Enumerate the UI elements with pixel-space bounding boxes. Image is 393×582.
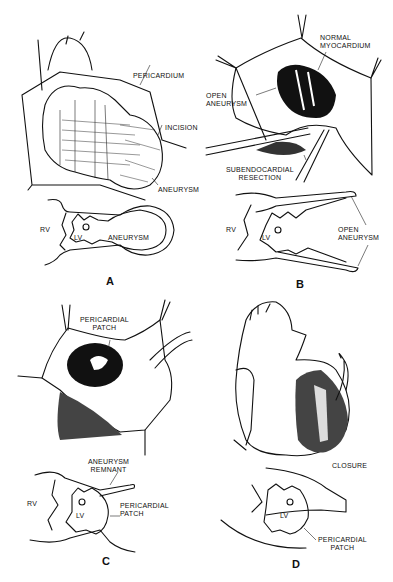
panel-letter-d: D	[292, 558, 300, 570]
label-section-pericardial-patch: PERICARDIAL PATCH	[318, 536, 367, 552]
label-closure: CLOSURE	[332, 462, 367, 470]
label-section-aneurysm: ANEURYSM	[108, 234, 149, 242]
label-subendocardial-resection: SUBENDOCARDIAL RESECTION	[226, 166, 294, 182]
label-rv: RV	[40, 226, 50, 234]
label-lv: LV	[280, 512, 288, 520]
panel-letter-b: B	[296, 278, 304, 290]
label-lv: LV	[262, 234, 270, 242]
label-normal-myocardium: NORMAL MYOCARDIUM	[320, 34, 371, 50]
panel-d: CLOSURE LV PERICARDIAL PATCH D	[196, 290, 393, 582]
pericardial-patch-illustration	[0, 290, 196, 582]
label-rv: RV	[27, 500, 37, 508]
label-section-open-aneurysm: OPEN ANEURYSM	[338, 226, 379, 242]
heart-aneurysm-illustration	[0, 0, 196, 290]
label-pericardial-patch: PERICARDIAL PATCH	[80, 316, 129, 332]
label-aneurysm: ANEURYSM	[158, 186, 199, 194]
label-incision: INCISION	[165, 124, 198, 132]
panel-a: PERICARDIUM INCISION ANEURYSM RV LV ANEU…	[0, 0, 196, 290]
label-rv: RV	[226, 226, 236, 234]
label-aneurysm-remnant: ANEURYSM REMNANT	[88, 458, 129, 474]
label-lv: LV	[76, 512, 84, 520]
panel-letter-c: C	[102, 555, 110, 567]
panel-b: NORMAL MYOCARDIUM OPEN ANEURYSM SUBENDOC…	[196, 0, 393, 290]
label-open-aneurysm: OPEN ANEURYSM	[206, 92, 247, 108]
panel-c: PERICARDIAL PATCH ANEURYSM REMNANT RV LV…	[0, 290, 196, 582]
label-lv: LV	[74, 234, 82, 242]
label-section-pericardial-patch: PERICARDIAL PATCH	[120, 502, 169, 518]
panel-letter-a: A	[106, 275, 114, 287]
label-pericardium: PERICARDIUM	[133, 72, 184, 80]
